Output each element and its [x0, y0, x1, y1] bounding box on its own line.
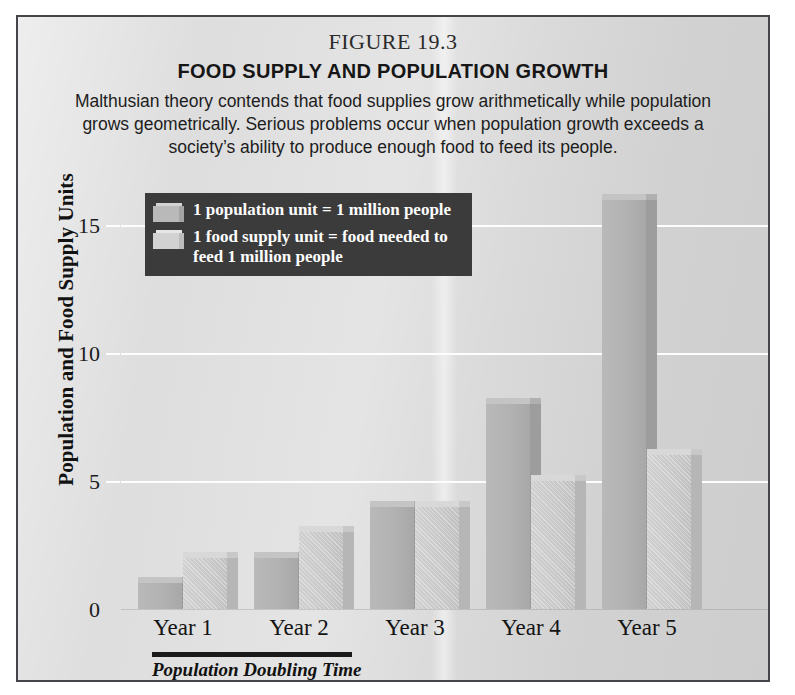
x-label-year-3: Year 3 [360, 615, 470, 641]
figure-page: FIGURE 19.3 FOOD SUPPLY AND POPULATION G… [0, 0, 795, 695]
swatch-front-face [153, 206, 179, 222]
bar-top-wedge [182, 577, 193, 584]
swatch-side-face [179, 233, 184, 249]
bar-food-year-3 [415, 507, 459, 609]
ytick-dash-15 [106, 225, 120, 227]
bar-side-face [414, 507, 425, 609]
bar-front-face [647, 455, 691, 609]
bar-front-face [602, 200, 646, 609]
bar-top-face [370, 501, 414, 508]
bar-side-face [575, 481, 586, 609]
bar-food-year-4 [531, 481, 575, 609]
bar-top-face [486, 398, 530, 405]
bar-top-face [254, 552, 298, 559]
figure-frame: FIGURE 19.3 FOOD SUPPLY AND POPULATION G… [16, 15, 770, 682]
bar-front-face [531, 481, 575, 609]
legend-item-food-supply: 1 food supply unit = food needed to feed… [153, 227, 462, 267]
bar-front-face [486, 404, 530, 609]
axis-baseline [121, 609, 768, 610]
bar-front-face [138, 583, 182, 609]
figure-number: FIGURE 19.3 [18, 29, 768, 54]
chart-legend: 1 population unit = 1 million people 1 f… [145, 193, 472, 276]
bar-side-face [646, 200, 657, 609]
x-label-year-5: Year 5 [592, 615, 702, 641]
legend-label-population: 1 population unit = 1 million people [193, 200, 451, 220]
bar-side-face [182, 583, 193, 609]
swatch-side-face [179, 206, 184, 222]
bar-top-face [138, 577, 182, 584]
food-supply-swatch-icon [153, 230, 184, 249]
bar-population-year-1 [138, 583, 182, 609]
bar-side-face [691, 455, 702, 609]
legend-item-population: 1 population unit = 1 million people [153, 200, 462, 222]
ytick-label-15: 15 [54, 213, 100, 239]
bar-side-face [298, 558, 309, 609]
bar-top-wedge [414, 501, 425, 508]
doubling-time-rule [152, 652, 352, 657]
bar-top-face [299, 526, 343, 533]
x-label-year-2: Year 2 [244, 615, 354, 641]
bar-top-face [415, 501, 459, 508]
bar-population-year-3 [370, 507, 414, 609]
bar-front-face [299, 532, 343, 609]
swatch-front-face [153, 233, 179, 249]
ytick-label-0: 0 [54, 597, 100, 623]
bar-top-wedge [227, 552, 238, 559]
bar-food-year-5 [647, 455, 691, 609]
gridline-5 [121, 481, 768, 483]
bar-side-face [227, 558, 238, 609]
ytick-dash-10 [106, 353, 120, 355]
bar-top-wedge [459, 501, 470, 508]
figure-caption: Malthusian theory contends that food sup… [63, 90, 723, 158]
bar-population-year-2 [254, 558, 298, 609]
bar-top-wedge [530, 398, 541, 405]
y-axis-title: Population and Food Supply Units [54, 165, 79, 495]
gridline-10 [121, 353, 768, 355]
bar-top-wedge [298, 552, 309, 559]
bar-front-face [254, 558, 298, 609]
bar-side-face [530, 404, 541, 609]
bar-top-face [602, 194, 646, 201]
x-label-year-4: Year 4 [476, 615, 586, 641]
bar-top-face [183, 552, 227, 559]
bar-food-year-1 [183, 558, 227, 609]
bar-front-face [183, 558, 227, 609]
bar-population-year-4 [486, 404, 530, 609]
ytick-dash-5 [106, 481, 120, 483]
bar-top-wedge [691, 449, 702, 456]
bar-front-face [370, 507, 414, 609]
bar-food-year-2 [299, 532, 343, 609]
population-swatch-icon [153, 203, 184, 222]
figure-heading-block: FIGURE 19.3 FOOD SUPPLY AND POPULATION G… [18, 29, 768, 159]
figure-title: FOOD SUPPLY AND POPULATION GROWTH [18, 60, 768, 83]
bar-side-face [343, 532, 354, 609]
bar-top-face [531, 475, 575, 482]
bar-top-wedge [646, 194, 657, 201]
x-label-year-1: Year 1 [128, 615, 238, 641]
bar-side-face [459, 507, 470, 609]
ytick-label-10: 10 [54, 341, 100, 367]
bar-top-wedge [575, 475, 586, 482]
bar-front-face [415, 507, 459, 609]
doubling-time-label: Population Doubling Time [152, 659, 352, 681]
bar-top-face [647, 449, 691, 456]
legend-label-food-supply: 1 food supply unit = food needed to feed… [193, 227, 462, 267]
bar-top-wedge [343, 526, 354, 533]
ytick-label-5: 5 [54, 469, 100, 495]
bar-population-year-5 [602, 200, 646, 609]
